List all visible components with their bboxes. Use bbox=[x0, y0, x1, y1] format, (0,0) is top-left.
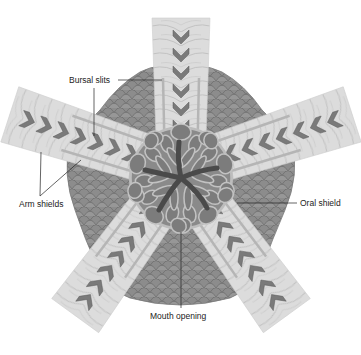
brittle-star-diagram: Bursal slits Arm shields Oral shield Mou… bbox=[0, 0, 361, 355]
label-arm-shields: Arm shields bbox=[19, 200, 63, 209]
label-mouth-opening: Mouth opening bbox=[150, 312, 206, 321]
label-bursal-slits: Bursal slits bbox=[69, 76, 110, 85]
arm-shields-line-1 bbox=[40, 152, 41, 196]
label-oral-shield: Oral shield bbox=[300, 199, 341, 208]
diagram-svg bbox=[0, 0, 361, 355]
